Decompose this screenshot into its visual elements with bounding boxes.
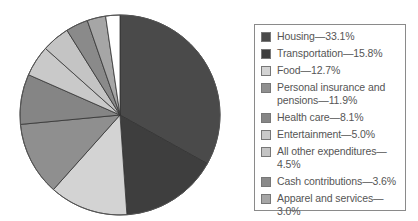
legend-label: Transportation—15.8% xyxy=(277,47,383,60)
legend-swatch xyxy=(261,32,271,42)
legend-label: All other expenditures—4.5% xyxy=(277,145,401,171)
legend-swatch xyxy=(261,147,271,157)
legend-item-personal-insurance: Personal insurance and pensions—11.9% xyxy=(261,81,401,107)
legend: Housing—33.1% Transportation—15.8% Food—… xyxy=(254,24,406,211)
legend-label: Apparel and services—3.0% xyxy=(277,192,401,218)
legend-swatch xyxy=(261,194,271,204)
legend-label: Entertainment—5.0% xyxy=(277,128,375,141)
legend-item-entertainment: Entertainment—5.0% xyxy=(261,128,401,141)
legend-label: Housing—33.1% xyxy=(277,30,355,43)
legend-item-housing: Housing—33.1% xyxy=(261,30,401,43)
legend-swatch xyxy=(261,49,271,59)
legend-item-cash-contributions: Cash contributions—3.6% xyxy=(261,175,401,188)
legend-item-all-other: All other expenditures—4.5% xyxy=(261,145,401,171)
legend-item-apparel: Apparel and services—3.0% xyxy=(261,192,401,218)
pie-chart xyxy=(0,0,240,221)
legend-item-transportation: Transportation—15.8% xyxy=(261,47,401,60)
legend-swatch xyxy=(261,83,271,93)
legend-label: Cash contributions—3.6% xyxy=(277,175,396,188)
legend-label: Personal insurance and pensions—11.9% xyxy=(277,81,401,107)
legend-label: Health care—8.1% xyxy=(277,111,364,124)
legend-label: Food—12.7% xyxy=(277,64,340,77)
legend-swatch xyxy=(261,177,271,187)
legend-item-food: Food—12.7% xyxy=(261,64,401,77)
legend-swatch xyxy=(261,130,271,140)
legend-item-health-care: Health care—8.1% xyxy=(261,111,401,124)
legend-swatch xyxy=(261,113,271,123)
legend-swatch xyxy=(261,66,271,76)
